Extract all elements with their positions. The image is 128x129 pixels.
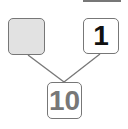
blank-part-box[interactable] [8,18,45,55]
whole-box: 10 [47,82,82,119]
part-box-right: 1 [83,18,119,54]
